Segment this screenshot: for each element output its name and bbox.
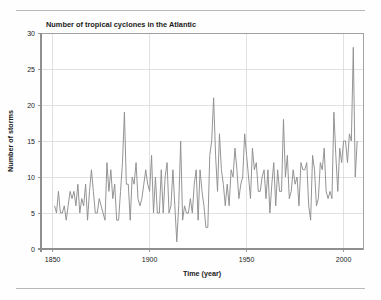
y-tick-label-30: 30	[27, 30, 35, 37]
x-axis-ticks: 1850190019502000	[45, 249, 352, 263]
y-tick-label-15: 15	[27, 138, 35, 145]
y-tick-label-20: 20	[27, 102, 35, 109]
y-tick-label-25: 25	[27, 66, 35, 73]
figure-page: 051015202530 1850190019502000 Number of …	[0, 0, 381, 300]
x-axis-label: Time (year)	[183, 269, 222, 278]
y-tick-label-10: 10	[27, 174, 35, 181]
x-tick-label-2000: 2000	[336, 256, 352, 263]
y-axis-ticks: 051015202530	[27, 30, 41, 253]
y-axis-label: Number of storms	[6, 110, 15, 172]
y-tick-label-5: 5	[31, 210, 35, 217]
chart-figure: 051015202530 1850190019502000 Number of …	[0, 0, 381, 300]
x-tick-label-1850: 1850	[45, 256, 61, 263]
tropical-cyclones-line-chart: 051015202530 1850190019502000 Number of …	[0, 0, 381, 300]
x-tick-label-1950: 1950	[239, 256, 255, 263]
x-tick-label-1900: 1900	[142, 256, 158, 263]
y-tick-label-0: 0	[31, 246, 35, 253]
chart-title: Number of tropical cyclones in the Atlan…	[46, 20, 196, 29]
